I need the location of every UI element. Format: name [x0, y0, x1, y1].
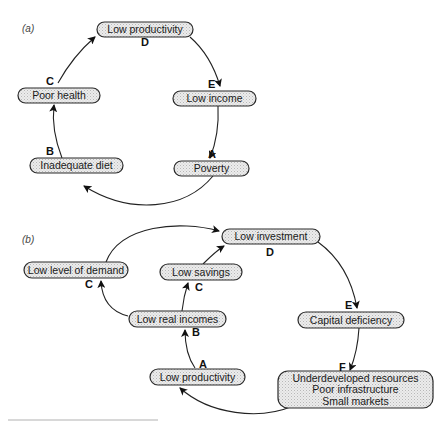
arrow-b-low-level-of-demand-to-b-low-investment — [106, 226, 219, 262]
node-label: Low level of demand — [28, 264, 124, 276]
step-letter-d: D — [141, 36, 149, 48]
node-label: Underdeveloped resources — [292, 372, 418, 384]
node-label: Low investment — [235, 230, 308, 242]
node-b-low-real-incomes: Low real incomes — [129, 311, 226, 327]
step-letter-b: B — [192, 326, 200, 338]
arrow-b-capital-deficiency-to-b-underdeveloped — [350, 328, 359, 370]
step-letter-c: C — [46, 75, 54, 87]
node-b-low-productivity: Low productivity — [150, 369, 245, 385]
node-label: Poor health — [32, 89, 86, 101]
node-a-inadequate-diet: Inadequate diet — [30, 158, 123, 173]
step-letter-f: F — [339, 361, 346, 373]
node-a-poverty: Poverty — [174, 161, 249, 176]
step-letter-b: B — [46, 145, 54, 157]
node-label: Capital deficiency — [310, 314, 393, 326]
arrow-a-poverty-to-a-inadequate-diet — [84, 176, 213, 205]
node-b-low-savings: Low savings — [160, 264, 242, 280]
arrow-a-low-productivity-to-a-low-income — [190, 37, 220, 86]
node-label: Low productivity — [107, 23, 183, 35]
arrow-b-low-real-incomes-to-b-low-savings — [182, 283, 188, 311]
node-label: Inadequate diet — [40, 159, 112, 171]
panel-label-b: (b) — [22, 234, 34, 245]
step-letter-d: D — [266, 246, 274, 258]
nodes-layer: Low productivityLow incomePovertyInadequ… — [18, 22, 433, 408]
arrow-a-inadequate-diet-to-a-poor-health — [53, 105, 62, 158]
node-b-underdeveloped: Underdeveloped resourcesPoor infrastruct… — [278, 371, 433, 408]
node-label: Low income — [186, 92, 242, 104]
node-a-low-income: Low income — [173, 91, 256, 106]
vicious-circle-diagram: Low productivityLow incomePovertyInadequ… — [0, 0, 448, 421]
step-letter-e: E — [208, 78, 215, 90]
arrow-b-low-savings-to-b-low-investment — [203, 246, 224, 264]
node-label: Small markets — [322, 395, 389, 407]
node-label: Low productivity — [160, 371, 236, 383]
arrow-a-poor-health-to-a-low-productivity — [58, 37, 95, 83]
node-a-low-productivity: Low productivity — [97, 22, 193, 37]
arrow-b-low-real-incomes-to-b-low-level-of-demand — [101, 281, 128, 316]
step-letter-c: C — [195, 281, 203, 293]
node-b-capital-deficiency: Capital deficiency — [298, 312, 404, 328]
node-label: Poor infrastructure — [312, 383, 399, 395]
step-letter-e: E — [345, 299, 352, 311]
panel-label-a: (a) — [22, 23, 34, 34]
step-letter-a: A — [199, 358, 207, 370]
node-label: Low savings — [172, 266, 230, 278]
labels-layer: (a)DEABC(b)DCCBEFA — [8, 23, 352, 421]
step-letter-a: A — [208, 148, 216, 160]
node-a-poor-health: Poor health — [18, 88, 100, 103]
step-letter-c: C — [85, 278, 93, 290]
node-label: Poverty — [194, 162, 230, 174]
node-b-low-investment: Low investment — [222, 229, 320, 244]
node-b-low-level-of-demand: Low level of demand — [24, 262, 128, 278]
node-label: Low real incomes — [137, 313, 219, 325]
arrow-b-underdeveloped-to-b-low-productivity — [180, 388, 293, 414]
